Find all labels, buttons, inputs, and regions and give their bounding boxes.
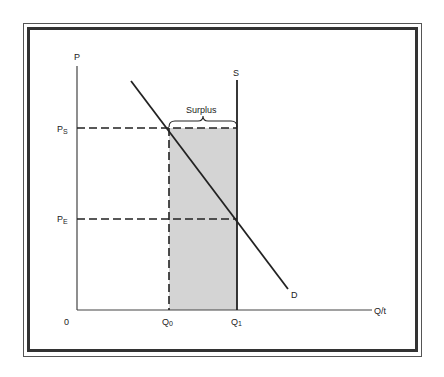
demand-label: D	[291, 290, 298, 300]
surplus-diagram: P S D Surplus PS PE 0 Q0 Q1 Q/t	[0, 0, 444, 377]
q0-label: Q0	[162, 317, 173, 327]
equilibrium-price-label: PE	[57, 214, 68, 225]
supply-label: S	[233, 68, 239, 78]
surplus-brace	[169, 116, 237, 127]
price-support-label: PS	[57, 124, 68, 135]
y-axis-label: P	[74, 52, 80, 62]
surplus-label: Surplus	[186, 105, 217, 115]
q1-label: Q1	[231, 317, 242, 327]
origin-label: 0	[64, 317, 69, 327]
x-axis-label: Q/t	[374, 306, 387, 316]
